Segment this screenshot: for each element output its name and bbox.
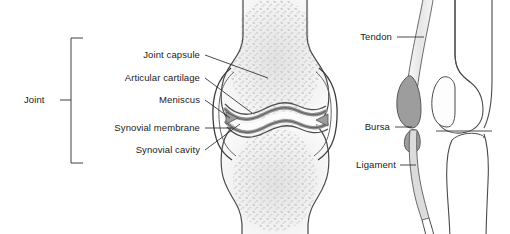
label-bursa: Bursa — [340, 122, 390, 132]
label-tendon: Tendon — [340, 32, 392, 42]
knee-joint-figure: Joint Joint capsule Articular cartilage … — [0, 0, 510, 234]
anterior-view-graphic — [0, 0, 510, 234]
patella-bone — [432, 77, 455, 127]
bracket-label-joint: Joint — [24, 95, 45, 105]
label-joint-capsule: Joint capsule — [104, 50, 200, 60]
label-synovial-membrane: Synovial membrane — [84, 123, 200, 133]
joint-bracket — [60, 38, 83, 163]
label-articular-cartilage: Articular cartilage — [84, 73, 200, 83]
lateral-view-graphic — [397, 0, 492, 234]
label-meniscus: Meniscus — [120, 95, 200, 105]
tibia-lateral-bone — [447, 140, 452, 234]
tibia-bone — [218, 124, 334, 234]
label-ligament: Ligament — [336, 160, 396, 170]
label-synovial-cavity: Synovial cavity — [100, 145, 200, 155]
